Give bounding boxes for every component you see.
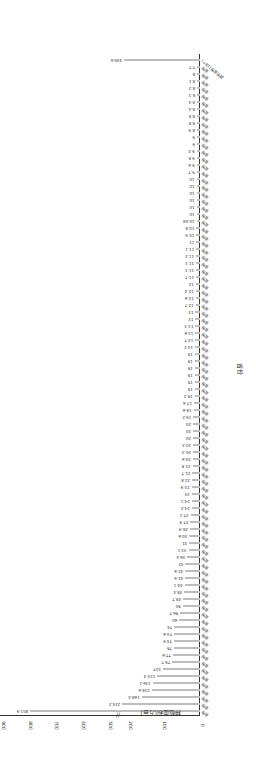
bar xyxy=(196,304,200,306)
value-label: 20.2 xyxy=(182,444,191,448)
bar xyxy=(185,577,200,579)
bar xyxy=(196,283,200,285)
value-label: 12.4 xyxy=(185,290,194,294)
value-label: 20 xyxy=(186,430,191,434)
bar xyxy=(193,458,200,460)
bar xyxy=(189,549,200,551)
value-label: 15 xyxy=(188,374,193,378)
value-label: 12.6 xyxy=(185,297,194,301)
bar xyxy=(189,535,200,537)
bar xyxy=(183,598,200,600)
bar xyxy=(192,507,200,509)
value-label: 9.5 xyxy=(188,157,194,161)
bar xyxy=(184,591,200,593)
value-label: 8 xyxy=(193,73,196,77)
value-label: 13.6 xyxy=(184,332,193,336)
bar xyxy=(174,633,200,635)
bar xyxy=(174,626,200,628)
value-label: 11 xyxy=(189,241,194,245)
value-label: 7.7 xyxy=(189,66,195,70)
bar xyxy=(173,654,200,656)
value-label: 13 xyxy=(188,311,193,315)
bar xyxy=(195,332,200,334)
bar xyxy=(196,311,201,313)
value-label: 10 xyxy=(189,178,194,182)
bar xyxy=(197,206,200,208)
value-label: 8.2 xyxy=(189,87,195,91)
bar xyxy=(197,143,200,145)
bar xyxy=(174,647,200,649)
value-label: 74.9 xyxy=(163,640,172,644)
bar xyxy=(187,556,200,558)
value-label: 15 xyxy=(188,360,193,364)
bar xyxy=(194,409,200,411)
bar-chart-plot: 0100200500600700800900//801.9省份224.2省份16… xyxy=(0,0,256,768)
value-label: 20 xyxy=(186,437,191,441)
bar xyxy=(193,430,200,432)
bar xyxy=(196,227,200,229)
bar xyxy=(195,360,200,362)
bar xyxy=(163,668,200,670)
bar xyxy=(179,619,200,621)
bar xyxy=(197,199,200,201)
bar xyxy=(196,290,200,292)
value-label: 27.1 xyxy=(180,514,189,518)
bar xyxy=(193,423,200,425)
value-label: 8.1 xyxy=(189,80,195,84)
value-label: 17.6 xyxy=(183,402,192,406)
bar xyxy=(193,451,200,453)
bar xyxy=(195,367,200,369)
bar xyxy=(192,493,200,495)
value-label: 15 xyxy=(188,353,193,357)
bar xyxy=(193,444,200,446)
bar xyxy=(195,374,200,376)
value-label: 11.7 xyxy=(185,276,194,280)
value-label: 10 xyxy=(189,213,194,217)
value-label: 138.6 xyxy=(139,689,150,693)
value-label: 8.5 xyxy=(189,115,195,119)
value-label: 13 xyxy=(188,318,193,322)
axis-break-icon: // xyxy=(116,712,120,719)
bar xyxy=(194,402,200,404)
bar xyxy=(157,675,200,677)
value-label: 9 xyxy=(192,136,195,140)
bar xyxy=(196,318,201,320)
bar xyxy=(122,703,200,705)
value-label: 28.9 xyxy=(179,528,188,532)
value-label: 27.5 xyxy=(180,521,189,525)
bar xyxy=(185,584,200,586)
value-label: 42 xyxy=(178,563,183,567)
value-label: 9.6 xyxy=(188,164,194,168)
value-label: 48.7 xyxy=(172,598,181,602)
bar xyxy=(195,381,200,383)
value-label: 42.6 xyxy=(174,577,183,581)
value-label: 24.1 xyxy=(181,500,190,504)
value-label: 30.6 xyxy=(179,535,188,539)
bar xyxy=(197,129,200,131)
bar xyxy=(197,171,200,173)
bar xyxy=(197,157,200,159)
value-label: 33.1 xyxy=(178,549,187,553)
x-axis-label: 种植面积(万亩) xyxy=(140,709,181,718)
bar xyxy=(197,213,200,215)
bar xyxy=(174,640,200,642)
value-label: 449.6 xyxy=(111,59,122,63)
value-label: 21.5 xyxy=(182,465,191,469)
value-label: 74 xyxy=(167,626,172,630)
bar xyxy=(196,297,200,299)
bar xyxy=(185,570,200,572)
value-label: 10.5 xyxy=(185,227,194,231)
value-label: 56.7 xyxy=(169,612,178,616)
tick-label: 800 xyxy=(28,721,33,730)
tick-label: 900 xyxy=(1,721,6,730)
value-label: 10.9 xyxy=(185,234,194,238)
tick-label: 700 xyxy=(55,721,60,730)
bar xyxy=(197,185,200,187)
bar xyxy=(172,661,200,663)
value-label: 14.2 xyxy=(184,346,193,350)
bar xyxy=(195,388,200,390)
bar xyxy=(195,353,200,355)
value-label: 8.3 xyxy=(189,94,195,98)
bar xyxy=(195,346,200,348)
bar xyxy=(195,325,200,327)
